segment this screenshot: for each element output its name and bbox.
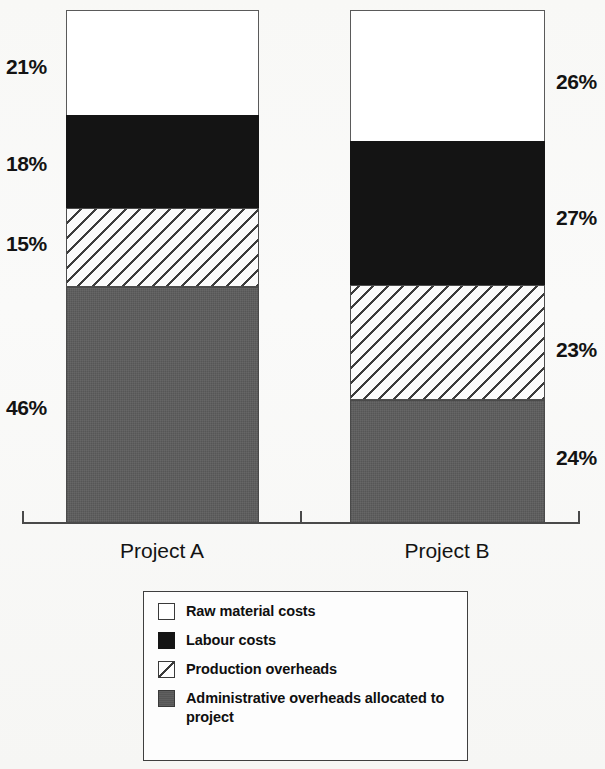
value-label-a-production: 15% <box>6 232 47 256</box>
legend-label-administrative: Administrative overheads allocated to pr… <box>186 689 467 725</box>
legend-item-raw-material[interactable]: Raw material costs <box>158 602 467 620</box>
stacked-bar-chart: 21% 18% 15% 46% 26% 27% 23% 24% Project … <box>0 0 605 769</box>
value-label-a-labour: 18% <box>6 152 47 176</box>
black-swatch-icon <box>158 632 175 649</box>
gray-swatch-icon <box>158 690 175 707</box>
value-label-b-production: 23% <box>556 338 597 362</box>
legend-label-raw-material: Raw material costs <box>186 602 316 620</box>
bar-a-segment-raw-material[interactable] <box>66 10 259 116</box>
axis-tick-center <box>300 511 302 523</box>
bar-b-segment-labour[interactable] <box>350 141 545 285</box>
value-label-b-administrative: 24% <box>556 446 597 470</box>
bar-b-segment-administrative[interactable] <box>350 400 545 523</box>
category-label-project-b: Project B <box>347 539 547 563</box>
axis-tick-right <box>578 511 580 523</box>
bar-b-segment-production[interactable] <box>350 285 545 400</box>
hatched-swatch-icon <box>158 661 175 678</box>
bar-project-b[interactable] <box>350 10 545 523</box>
legend-item-labour[interactable]: Labour costs <box>158 631 467 649</box>
legend-item-administrative[interactable]: Administrative overheads allocated to pr… <box>158 689 467 725</box>
value-label-a-raw-material: 21% <box>6 55 47 79</box>
bar-a-segment-administrative[interactable] <box>66 287 259 523</box>
legend-item-production[interactable]: Production overheads <box>158 660 467 678</box>
value-label-a-administrative: 46% <box>6 396 47 420</box>
legend-label-labour: Labour costs <box>186 631 276 649</box>
white-swatch-icon <box>158 603 175 620</box>
bar-project-a[interactable] <box>66 10 259 523</box>
value-label-b-labour: 27% <box>556 206 597 230</box>
legend-label-production: Production overheads <box>186 660 337 678</box>
value-label-b-raw-material: 26% <box>556 70 597 94</box>
bar-a-segment-production[interactable] <box>66 208 259 287</box>
bar-a-segment-labour[interactable] <box>66 115 259 208</box>
chart-legend: Raw material costs Labour costs Producti… <box>143 591 468 761</box>
bar-b-segment-raw-material[interactable] <box>350 10 545 142</box>
axis-tick-left <box>22 511 24 523</box>
category-label-project-a: Project A <box>62 539 262 563</box>
